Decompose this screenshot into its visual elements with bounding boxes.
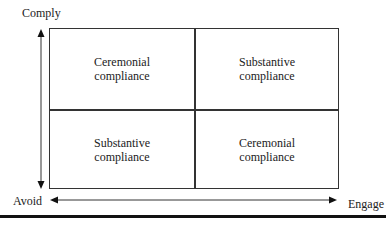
quadrant-text-line1: Ceremonial (239, 136, 295, 150)
bottom-rule-divider (0, 215, 386, 218)
quadrant-text-line2: compliance (94, 69, 150, 83)
horizontal-double-arrow-icon (50, 197, 337, 204)
quadrant-text-line1: Substantive (239, 55, 295, 69)
quadrant-text-line2: compliance (94, 150, 150, 164)
quadrant-top-left: Ceremonial compliance (50, 29, 194, 109)
quadrant-text-line1: Ceremonial (94, 55, 150, 69)
x-axis-right-label: Engage (348, 197, 384, 212)
compliance-matrix: Ceremonial compliance Substantive compli… (49, 28, 339, 189)
quadrant-bottom-left: Substantive compliance (50, 110, 194, 190)
quadrant-text-line2: compliance (239, 150, 295, 164)
quadrant-bottom-right: Ceremonial compliance (195, 110, 339, 190)
vertical-double-arrow-icon (38, 29, 45, 189)
x-axis-left-label: Avoid (13, 194, 42, 209)
quadrant-top-right: Substantive compliance (195, 29, 339, 109)
quadrant-text-line1: Substantive (94, 136, 150, 150)
quadrant-text-line2: compliance (239, 69, 295, 83)
